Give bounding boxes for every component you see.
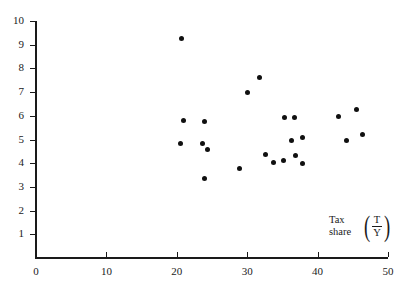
- x-tick-40: [318, 252, 319, 257]
- data-point: [202, 176, 207, 181]
- tax-ratio-symbol: ( T Y ): [362, 214, 392, 239]
- x-tick-label-30: 30: [234, 266, 260, 277]
- y-tick-9: [30, 45, 35, 46]
- left-paren-icon: (: [364, 214, 370, 239]
- scatter-plot-figure: 12345678910 01020304050 Tax share ( T Y …: [0, 0, 412, 298]
- y-tick-2: [30, 211, 35, 212]
- data-point: [181, 118, 186, 123]
- data-point: [336, 114, 341, 119]
- data-point: [360, 132, 365, 137]
- y-tick-7: [30, 92, 35, 93]
- x-tick-30: [247, 252, 248, 257]
- y-axis-line: [35, 21, 37, 259]
- x-tick-50: [388, 252, 389, 257]
- y-tick-8: [30, 68, 35, 69]
- data-point: [289, 138, 294, 143]
- data-point: [293, 153, 298, 158]
- x-tick-10: [106, 252, 107, 257]
- x-tick-20: [177, 252, 178, 257]
- data-point: [205, 147, 210, 152]
- tax-share-text: Tax share: [329, 214, 351, 239]
- data-point: [282, 115, 287, 120]
- data-point: [245, 90, 250, 95]
- x-tick-label-10: 10: [93, 266, 119, 277]
- data-point: [292, 115, 297, 120]
- data-point: [237, 166, 242, 171]
- y-tick-label-2: 2: [2, 205, 24, 216]
- x-axis-line: [35, 257, 388, 259]
- data-point: [281, 158, 286, 163]
- data-point: [200, 141, 205, 146]
- tax-ratio-fraction: T Y: [372, 214, 382, 238]
- y-tick-4: [30, 163, 35, 164]
- y-tick-6: [30, 116, 35, 117]
- data-point: [257, 75, 262, 80]
- data-point: [354, 107, 359, 112]
- y-tick-label-1: 1: [2, 228, 24, 239]
- y-tick-label-6: 6: [2, 110, 24, 121]
- x-tick-label-0: 0: [23, 266, 49, 277]
- y-tick-label-5: 5: [2, 134, 24, 145]
- y-tick-label-7: 7: [2, 86, 24, 97]
- y-tick-label-4: 4: [2, 157, 24, 168]
- data-point: [344, 138, 349, 143]
- x-tick-label-20: 20: [164, 266, 190, 277]
- data-point: [300, 135, 305, 140]
- data-point: [178, 141, 183, 146]
- data-point: [271, 160, 276, 165]
- data-point: [300, 161, 305, 166]
- right-paren-icon: ): [384, 214, 390, 239]
- y-tick-label-8: 8: [2, 62, 24, 73]
- fraction-denominator: Y: [372, 227, 382, 238]
- y-tick-label-10: 10: [2, 15, 24, 26]
- y-tick-5: [30, 140, 35, 141]
- data-point: [263, 152, 268, 157]
- data-point: [179, 36, 184, 41]
- plot-area: 12345678910 01020304050 Tax share ( T Y …: [0, 0, 412, 298]
- y-tick-3: [30, 187, 35, 188]
- y-tick-label-9: 9: [2, 39, 24, 50]
- data-point: [202, 119, 207, 124]
- x-tick-label-50: 50: [375, 266, 401, 277]
- fraction-numerator: T: [373, 214, 381, 225]
- tax-share-annotation: Tax share ( T Y ): [329, 214, 392, 239]
- y-tick-label-3: 3: [2, 181, 24, 192]
- y-tick-10: [30, 21, 35, 22]
- y-tick-1: [30, 234, 35, 235]
- x-tick-label-40: 40: [305, 266, 331, 277]
